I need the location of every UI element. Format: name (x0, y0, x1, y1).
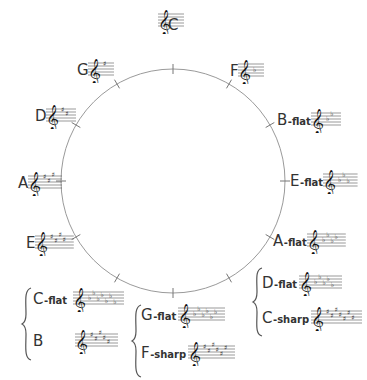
circle-outline (61, 69, 285, 293)
svg-text:♯: ♯ (220, 350, 223, 358)
key-e-flat: E-flat 𝄞♭♭♭ (290, 168, 358, 194)
key-label: E-flat (290, 172, 323, 190)
staff-icon: 𝄞♯♯♯ (28, 170, 63, 196)
svg-text:♭: ♭ (327, 275, 330, 283)
svg-text:♯: ♯ (65, 110, 68, 118)
svg-text:♭: ♭ (214, 308, 217, 316)
svg-text:𝄞: 𝄞 (311, 307, 324, 331)
svg-text:♭: ♭ (331, 281, 334, 289)
svg-text:♯: ♯ (61, 106, 64, 114)
svg-text:♭: ♭ (323, 279, 326, 287)
svg-text:♯: ♯ (203, 343, 206, 351)
staff-icon: 𝄞♭♭♭♭ (307, 228, 346, 254)
svg-text:♭: ♭ (202, 311, 205, 319)
key-a: A 𝄞♯♯♯ (18, 170, 62, 196)
svg-text:♯: ♯ (50, 233, 53, 241)
svg-text:𝄞: 𝄞 (188, 342, 201, 366)
key-g: G 𝄞♯ (77, 57, 114, 83)
staff-icon: 𝄞♯ (88, 57, 114, 83)
key-f: F 𝄞♭ (230, 58, 264, 84)
svg-text:♯: ♯ (351, 314, 354, 322)
svg-text:♭: ♭ (322, 236, 325, 244)
staff-icon: 𝄞♭♭♭♭♭♭ (178, 302, 225, 328)
svg-text:𝄞: 𝄞 (35, 232, 48, 256)
svg-text:♯: ♯ (43, 173, 46, 181)
svg-text:♯: ♯ (47, 177, 50, 185)
brace-icon (20, 286, 34, 362)
key-label: E (26, 234, 35, 252)
svg-text:♯: ♯ (216, 346, 219, 354)
svg-text:♯: ♯ (347, 309, 350, 317)
key-label: A-flat (273, 232, 307, 250)
svg-text:♭: ♭ (193, 310, 196, 318)
svg-text:𝄞: 𝄞 (46, 105, 59, 129)
svg-text:♭: ♭ (113, 298, 116, 306)
svg-text:♯: ♯ (63, 236, 66, 244)
staff-icon: 𝄞♭♭♭♭♭ (299, 270, 342, 296)
svg-text:𝄞: 𝄞 (323, 170, 336, 194)
circle-ticks (56, 64, 290, 298)
svg-text:♭: ♭ (101, 291, 104, 299)
svg-text:𝄞: 𝄞 (238, 60, 251, 84)
key-b: B 𝄞♯♯♯♯♯ (33, 328, 118, 354)
svg-text:♯: ♯ (103, 60, 106, 68)
svg-text:𝄞: 𝄞 (88, 59, 101, 83)
svg-text:♭: ♭ (197, 305, 200, 313)
svg-text:♭: ♭ (334, 233, 337, 241)
svg-text:♭: ♭ (330, 237, 333, 245)
svg-text:♯: ♯ (339, 311, 342, 319)
key-label: D (35, 107, 46, 125)
staff-icon: 𝄞♯♯♯♯ (35, 230, 74, 256)
svg-text:♯: ♯ (58, 231, 61, 239)
key-d-flat: D-flat 𝄞♭♭♭♭♭ (262, 270, 342, 296)
key-c-sharp: C-sharp 𝄞♯♯♯♯♯♯♯ (262, 305, 362, 331)
staff-icon: 𝄞♯♯♯♯♯♯♯ (311, 305, 362, 331)
svg-text:♯: ♯ (207, 347, 210, 355)
key-label: F-sharp (141, 344, 186, 362)
svg-text:♭: ♭ (342, 171, 345, 179)
svg-text:𝄞: 𝄞 (28, 172, 41, 196)
svg-text:♯: ♯ (326, 308, 329, 316)
svg-text:♭: ♭ (326, 115, 329, 123)
svg-text:♭: ♭ (88, 294, 91, 302)
svg-text:♭: ♭ (330, 110, 333, 118)
svg-text:♭: ♭ (96, 295, 99, 303)
key-d: D 𝄞♯♯ (35, 103, 76, 129)
staff-icon: 𝄞♯♯♯♯♯ (75, 328, 118, 354)
svg-text:𝄞: 𝄞 (307, 230, 320, 254)
staff-icon: 𝄞♯♯ (46, 103, 76, 129)
key-a-flat: A-flat 𝄞♭♭♭♭ (273, 228, 346, 254)
svg-text:♭: ♭ (109, 292, 112, 300)
svg-text:♯: ♯ (103, 334, 106, 342)
svg-text:𝄞: 𝄞 (299, 272, 312, 296)
svg-text:♯: ♯ (90, 331, 93, 339)
svg-text:♯: ♯ (54, 237, 57, 245)
svg-text:♭: ♭ (253, 66, 256, 74)
key-label: C-sharp (262, 309, 309, 327)
key-label: A (18, 174, 28, 192)
key-e: E 𝄞♯♯♯♯ (26, 230, 74, 256)
svg-text:♭: ♭ (314, 278, 317, 286)
svg-text:𝄞: 𝄞 (178, 304, 191, 328)
staff-icon: 𝄞♭ (238, 58, 264, 84)
svg-text:♭: ♭ (92, 289, 95, 297)
key-b-flat: B-flat 𝄞♭♭ (277, 107, 341, 133)
svg-text:♯: ♯ (334, 306, 337, 314)
svg-text:♯: ♯ (51, 171, 54, 179)
svg-text:♯: ♯ (330, 312, 333, 320)
svg-text:♯: ♯ (94, 335, 97, 343)
svg-text:♭: ♭ (206, 307, 209, 315)
svg-text:♭: ♭ (318, 273, 321, 281)
svg-text:𝄞: 𝄞 (73, 288, 86, 312)
svg-text:♯: ♯ (224, 344, 227, 352)
svg-text:♯: ♯ (107, 338, 110, 346)
svg-text:𝄞: 𝄞 (311, 109, 324, 133)
key-label: G-flat (141, 306, 176, 324)
svg-text:♭: ♭ (326, 231, 329, 239)
key-label: B (33, 332, 75, 350)
key-label: D-flat (262, 274, 297, 292)
key-g-flat: G-flat 𝄞♭♭♭♭♭♭ (141, 302, 225, 328)
svg-text:♭: ♭ (338, 176, 341, 184)
key-c-flat: C-flat 𝄞♭♭♭♭♭♭♭ (33, 286, 124, 312)
svg-text:♯: ♯ (212, 341, 215, 349)
